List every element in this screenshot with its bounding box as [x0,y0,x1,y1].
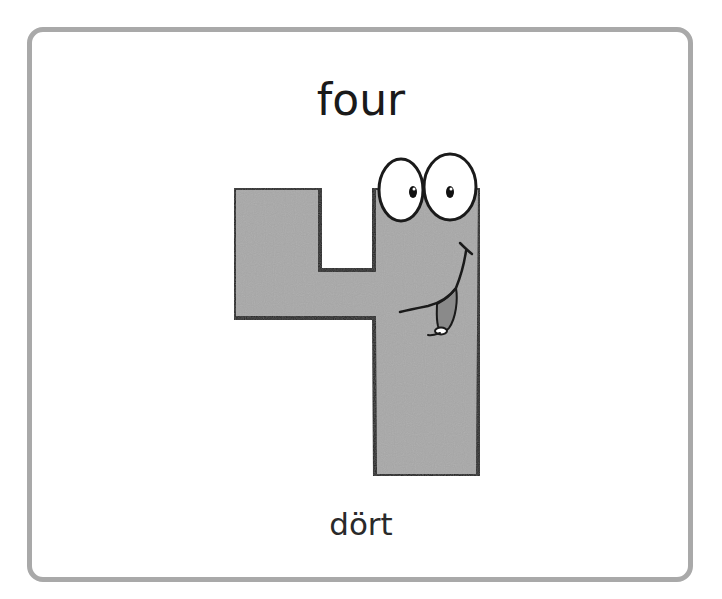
card-title-turkish: dört [0,502,722,546]
right-eye-icon [424,154,476,220]
left-eye-icon [379,159,423,221]
